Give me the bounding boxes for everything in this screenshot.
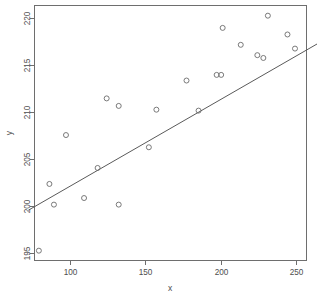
figure-background bbox=[0, 0, 317, 298]
plot-canvas: 195 200 205 210 215 220 y 100 150 200 25… bbox=[0, 0, 317, 298]
x-tick-label-100: 100 bbox=[64, 268, 78, 277]
scatter-plot-figure: 195 200 205 210 215 220 y 100 150 200 25… bbox=[0, 0, 317, 298]
y-tick-label-210: 210 bbox=[23, 105, 32, 119]
x-tick-label-200: 200 bbox=[215, 268, 229, 277]
y-tick-label-220: 220 bbox=[23, 11, 32, 25]
y-tick-label-215: 215 bbox=[23, 58, 32, 72]
y-tick-label-200: 200 bbox=[23, 199, 32, 213]
y-tick-label-195: 195 bbox=[23, 246, 32, 260]
x-tick-label-150: 150 bbox=[139, 268, 153, 277]
y-tick-label-205: 205 bbox=[23, 152, 32, 166]
x-tick-label-250: 250 bbox=[290, 268, 304, 277]
